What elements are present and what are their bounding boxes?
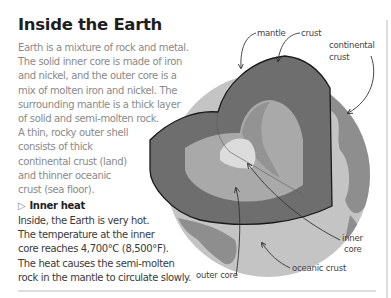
label-outer-core: outer core xyxy=(196,270,238,280)
label-continental-crust-1: continental xyxy=(329,40,375,50)
label-inner-core-1: inner xyxy=(342,233,364,243)
label-continental-crust-2: crust xyxy=(329,52,350,62)
earth-cutaway-diagram: mantle crust continental crust inner cor… xyxy=(0,0,391,298)
label-inner-core-2: core xyxy=(344,244,362,254)
label-oceanic-crust: oceanic crust xyxy=(292,263,347,273)
label-mantle: mantle xyxy=(257,28,286,38)
label-crust: crust xyxy=(301,28,322,38)
arrow-mantle xyxy=(241,33,256,68)
bottom-divider xyxy=(18,290,376,292)
right-divider xyxy=(386,20,388,298)
arrow-continental xyxy=(348,56,374,113)
